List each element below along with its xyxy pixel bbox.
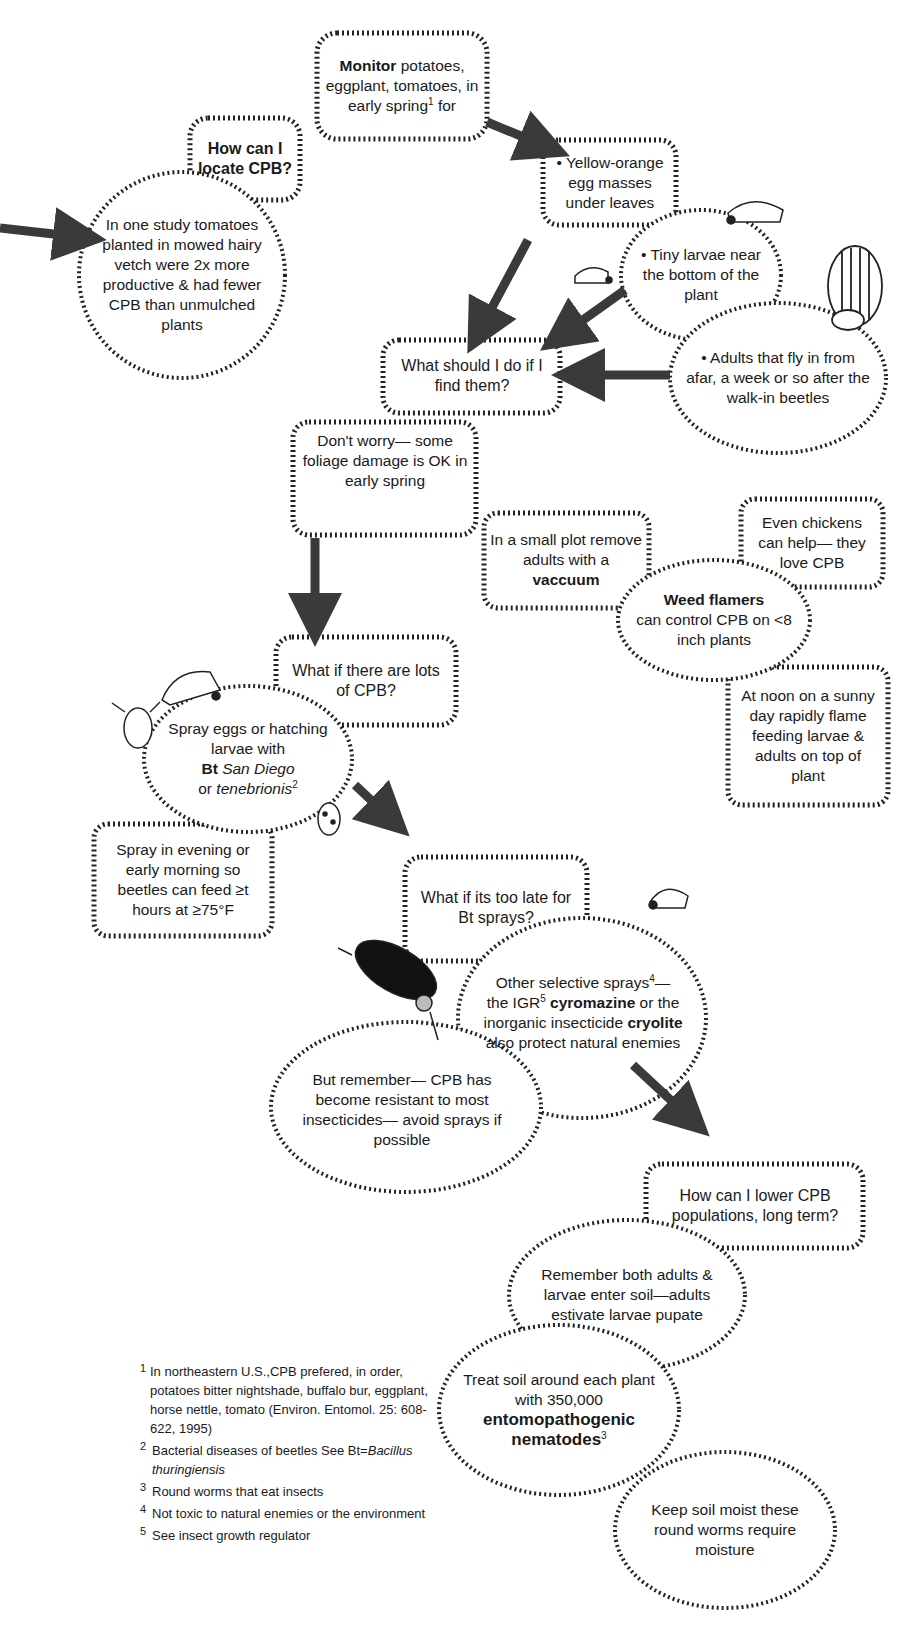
- too-late-question-text: What if its too late for Bt sprays?: [412, 888, 580, 928]
- arrow-monitor-to-eggs: [487, 122, 545, 146]
- chickens-node: Even chickens can help— they love CPB: [748, 505, 876, 581]
- moist-text: Keep soil moist these round worms requir…: [640, 1500, 810, 1560]
- footnote-2-number: 2: [140, 1437, 146, 1456]
- selective-or: or the: [635, 994, 679, 1011]
- arrow-larvae-to-find: [562, 290, 625, 335]
- selective-dash: —: [655, 974, 671, 991]
- arrow-left-into-vetch: [0, 228, 80, 237]
- flamers-node: Weed flamerscan control CPB on <8 inch p…: [628, 580, 800, 660]
- bt-text: Spray eggs or hatching larvae with: [168, 720, 327, 757]
- bt-strain-1: San Diego: [222, 760, 294, 777]
- lots-question-text: What if there are lots of CPB?: [284, 661, 448, 701]
- beetle-icon-striped: [828, 246, 882, 330]
- larvae-node: • Tiny larvae near the bottom of the pla…: [633, 235, 769, 315]
- adults-text: • Adults that fly in from afar, a week o…: [685, 348, 871, 408]
- larva-icon-top: [727, 202, 783, 224]
- footnote-4: 4Not toxic to natural enemies or the env…: [140, 1504, 440, 1523]
- noon-node: At noon on a sunny day rapidly flame fee…: [738, 673, 878, 799]
- locate-question-text: How can I locate CPB?: [196, 139, 294, 179]
- flamers-bold: Weed flamers: [664, 591, 765, 608]
- chickens-text: Even chickens can help— they love CPB: [748, 513, 876, 573]
- too-late-question: What if its too late for Bt sprays?: [412, 862, 580, 954]
- footnote-2-text: Bacterial diseases of beetles See Bt=: [152, 1443, 368, 1458]
- larvae-text: • Tiny larvae near the bottom of the pla…: [633, 245, 769, 305]
- find-question-text: What should I do if I find them?: [392, 356, 552, 396]
- larva-icon-selective: [649, 889, 688, 909]
- selective-cryolite: cryolite: [627, 1014, 682, 1031]
- long-term-question: How can I lower CPB populations, long te…: [654, 1170, 856, 1242]
- flamers-text: can control CPB on <8 inch plants: [636, 611, 792, 648]
- dont-worry-node: Don't worry— some foliage damage is OK i…: [300, 428, 470, 494]
- vetch-text: In one study tomatoes planted in mowed h…: [100, 215, 264, 335]
- footnote-4-number: 4: [140, 1500, 146, 1519]
- footnote-ref-2: 2: [292, 779, 298, 790]
- vacuum-node: In a small plot remove adults with a vac…: [490, 520, 642, 600]
- resist-node: But remember— CPB has become resistant t…: [292, 1062, 512, 1158]
- footnote-1-text: In northeastern U.S.,CPB prefered, in or…: [140, 1362, 440, 1438]
- arrow-eggs-to-find: [480, 240, 528, 330]
- monitor-node: Monitor potatoes, eggplant, tomatoes, in…: [322, 38, 482, 134]
- vacuum-bold: vaccuum: [532, 571, 599, 588]
- nematodes-text: Treat soil around each plant with 350,00…: [463, 1371, 655, 1408]
- footnote-5: 5See insect growth regulator: [140, 1526, 440, 1545]
- evening-text: Spray in evening or early morning so bee…: [102, 840, 264, 920]
- bt-or: or: [198, 780, 216, 797]
- noon-text: At noon on a sunny day rapidly flame fee…: [738, 686, 878, 786]
- footnote-1-number: 1: [140, 1359, 146, 1378]
- long-term-question-text: How can I lower CPB populations, long te…: [654, 1186, 856, 1226]
- larva-icon-left: [575, 268, 612, 283]
- bt-strain-2: tenebrionis: [216, 780, 292, 797]
- footnote-ref-3: 3: [601, 1430, 607, 1441]
- footnote-3-number: 3: [140, 1478, 146, 1497]
- dont-worry-text: Don't worry— some foliage damage is OK i…: [300, 431, 470, 491]
- footnote-5-number: 5: [140, 1522, 146, 1541]
- footnotes: 1In northeastern U.S.,CPB prefered, in o…: [140, 1362, 440, 1548]
- selective-cyromazine: cyromazine: [550, 994, 635, 1011]
- find-question: What should I do if I find them?: [392, 345, 552, 407]
- adults-node: • Adults that fly in from afar, a week o…: [685, 320, 871, 436]
- evening-node: Spray in evening or early morning so bee…: [102, 830, 264, 930]
- bt-node: Spray eggs or hatching larvae withBt San…: [160, 700, 336, 818]
- soil-node: Remember both adults & larvae enter soil…: [530, 1250, 724, 1340]
- arrow-bt-to-toolate: [355, 785, 390, 818]
- vetch-node: In one study tomatoes planted in mowed h…: [100, 200, 264, 350]
- locate-question: How can I locate CPB?: [196, 124, 294, 194]
- soil-text: Remember both adults & larvae enter soil…: [530, 1265, 724, 1325]
- eggs-text: • Yellow-orange egg masses under leaves: [550, 153, 670, 213]
- footnote-3: 3Round worms that eat insects: [140, 1482, 440, 1501]
- selective-line1: Other selective sprays: [496, 974, 649, 991]
- footnote-ref-5: 5: [540, 993, 546, 1004]
- footnote-1: 1In northeastern U.S.,CPB prefered, in o…: [140, 1362, 440, 1438]
- selective-protect: also protect natural enemies: [486, 1034, 681, 1051]
- monitor-tail: for: [434, 97, 456, 114]
- nematodes-bold: entomopathogenic nematodes: [483, 1410, 635, 1449]
- footnote-5-text: See insect growth regulator: [152, 1528, 310, 1543]
- footnote-3-text: Round worms that eat insects: [152, 1484, 323, 1499]
- footnote-4-text: Not toxic to natural enemies or the envi…: [152, 1506, 425, 1521]
- resist-text: But remember— CPB has become resistant t…: [292, 1070, 512, 1150]
- selective-node: Other selective sprays4— the IGR5 cyroma…: [470, 955, 696, 1071]
- footnote-2: 2Bacterial diseases of beetles See Bt=Ba…: [140, 1441, 440, 1479]
- monitor-bold: Monitor: [340, 57, 397, 74]
- bt-bold: Bt: [201, 760, 217, 777]
- selective-inorganic: inorganic insecticide: [483, 1014, 627, 1031]
- moist-node: Keep soil moist these round worms requir…: [640, 1490, 810, 1570]
- nematodes-node: Treat soil around each plant with 350,00…: [460, 1360, 658, 1460]
- eggs-node: • Yellow-orange egg masses under leaves: [550, 146, 670, 220]
- selective-igr: the IGR: [487, 994, 540, 1011]
- vacuum-text: In a small plot remove adults with a: [490, 531, 642, 568]
